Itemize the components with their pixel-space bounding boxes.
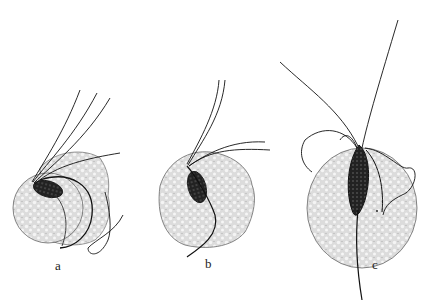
panel-b <box>159 80 270 257</box>
panel-c <box>280 20 417 300</box>
cell-b <box>159 152 254 248</box>
flagellum-c2 <box>280 62 358 146</box>
protozoa-illustration <box>0 0 428 303</box>
panel-a <box>13 90 123 254</box>
panel-label-c: c <box>372 257 378 273</box>
flagellum-c1 <box>362 20 398 148</box>
panel-label-b: b <box>205 256 212 272</box>
panel-label-a: a <box>55 258 61 274</box>
dot-c <box>376 210 378 212</box>
